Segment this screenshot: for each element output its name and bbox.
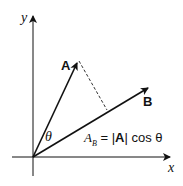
formula-lhs: A: [84, 130, 92, 145]
y-axis-label: y: [21, 11, 27, 25]
formula-eq: = |: [97, 130, 115, 145]
projection-formula: AB = |A| cos θ: [84, 131, 163, 148]
x-axis-label: x: [168, 161, 174, 175]
diagram-canvas: [0, 0, 183, 186]
formula-rest: | cos θ: [124, 130, 162, 145]
projection-diagram: y x A B θ AB = |A| cos θ: [0, 0, 183, 186]
vector-b-label: B: [143, 95, 152, 108]
vector-a-label: A: [61, 59, 70, 72]
projection-dashed-line: [79, 61, 107, 110]
angle-theta-label: θ: [45, 130, 52, 144]
